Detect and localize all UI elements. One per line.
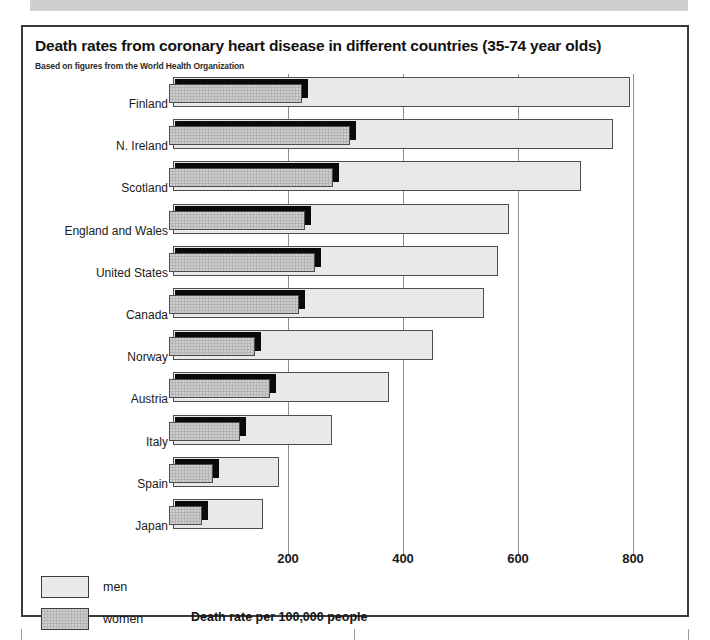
category-label-england-and-wales: England and Wales [64,224,168,238]
legend-swatch-women [41,608,89,630]
x-tick-label-600: 600 [507,551,529,566]
category-label-n-ireland: N. Ireland [116,139,168,153]
plot-area: 200400600800 FinlandN. IrelandScotlandEn… [23,27,691,619]
x-tick-label-400: 400 [392,551,414,566]
bar-women-england-and-wales [169,211,305,230]
bar-women-canada [169,295,299,314]
crop-mark-right [688,629,689,640]
bar-women-italy [169,422,240,441]
bar-women-united-states [169,253,315,272]
category-label-japan: Japan [135,519,168,533]
gridline-800 [633,74,634,556]
legend-label-women: women [103,608,143,630]
legend-label-men: men [103,576,127,598]
bar-women-n-ireland [169,126,350,145]
category-label-scotland: Scotland [121,181,168,195]
chart-figure: Death rates from coronary heart disease … [21,25,689,617]
category-label-austria: Austria [131,392,168,406]
crop-mark-left [21,629,22,640]
category-label-finland: Finland [129,97,168,111]
legend-swatch-men [41,576,89,598]
scan-top-strip [30,0,688,11]
category-label-canada: Canada [126,308,168,322]
bar-women-scotland [169,168,333,187]
category-labels: FinlandN. IrelandScotlandEngland and Wal… [23,27,168,619]
category-label-italy: Italy [146,435,168,449]
x-axis-caption: Death rate per 100,000 people [191,610,367,624]
crop-mark-center [354,629,355,640]
bar-women-austria [169,379,270,398]
category-label-norway: Norway [127,350,168,364]
x-tick-label-200: 200 [277,551,299,566]
bar-women-spain [169,464,213,483]
x-tick-label-800: 800 [622,551,644,566]
legend: men women [41,576,241,638]
category-label-spain: Spain [137,477,168,491]
bar-women-norway [169,337,255,356]
bar-women-japan [169,506,202,525]
bar-women-finland [169,84,302,103]
category-label-united-states: United States [96,266,168,280]
